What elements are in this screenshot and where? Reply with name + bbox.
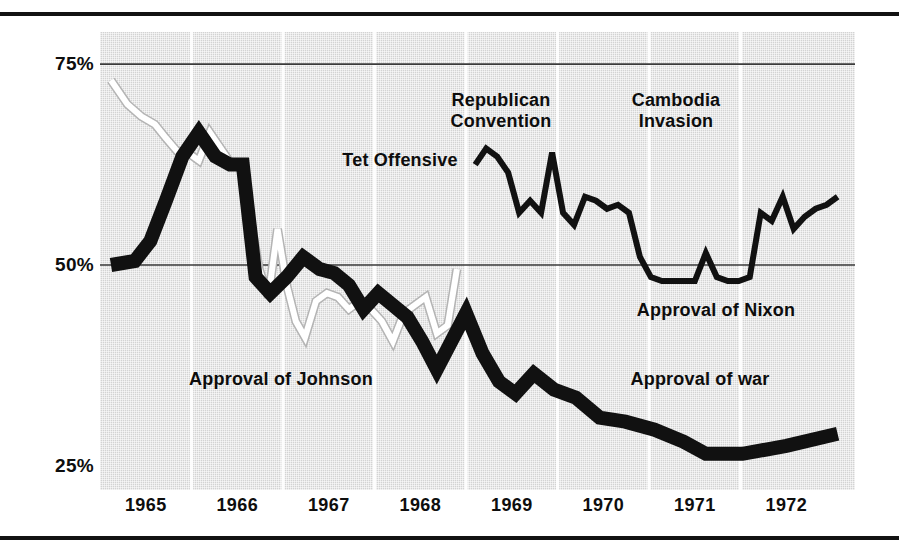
annotation-approval-of-johnson: Approval of Johnson	[121, 369, 441, 390]
annotation-tet-offensive: Tet Offensive	[240, 150, 560, 171]
chart-annotations: Republican ConventionCambodia InvasionTe…	[0, 0, 899, 560]
annotation-approval-of-war: Approval of war	[540, 369, 860, 390]
annotation-cambodia-invasion: Cambodia Invasion	[516, 90, 836, 132]
approval-trends-figure: 75%50%25% 196519661967196819691970197119…	[0, 0, 899, 560]
annotation-approval-of-nixon: Approval of Nixon	[556, 300, 876, 321]
